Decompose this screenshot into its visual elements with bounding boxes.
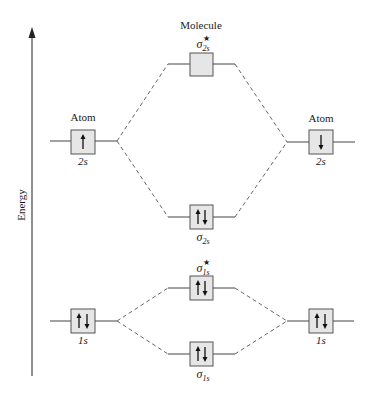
left-atom-label: Atom [63,111,103,123]
left-1s-label: 1s [68,334,98,346]
molecule-title: Molecule [170,19,232,31]
sigma-1s-star-label: σ1s★ [193,262,213,276]
box-left-1s [71,309,95,333]
subscript: 1s [202,268,209,277]
right-1s-label: 1s [306,334,336,346]
subscript: 2s [202,237,209,246]
sigma-1s-label: σ1s [193,368,213,382]
energy-axis-label: Energy [15,180,27,230]
subscript: 1s [202,374,209,383]
left-2s-label: 2s [68,155,98,167]
axis-arrow-icon [29,27,36,38]
box-right-1s [309,309,333,333]
sigma-2s-label: σ2s [193,231,213,245]
box-sigma-1s-star [190,276,213,300]
box-sigma-2s-star [190,53,213,76]
right-atom-label: Atom [301,112,341,124]
energy-axis [29,27,36,376]
box-sigma-2s [190,205,213,229]
antibonding-star-icon: ★ [203,33,210,45]
box-sigma-1s [190,342,213,366]
subscript: 2s [202,44,209,53]
orbital-boxes [71,53,333,366]
electron-arrows [77,134,328,362]
antibonding-star-icon: ★ [203,257,210,269]
right-2s-label: 2s [306,155,336,167]
sigma-2s-star-label: σ2s★ [193,38,213,52]
mo-diagram: Energy Molecule Atom Atom 2s 2s 1s 1s σ2… [0,0,375,396]
